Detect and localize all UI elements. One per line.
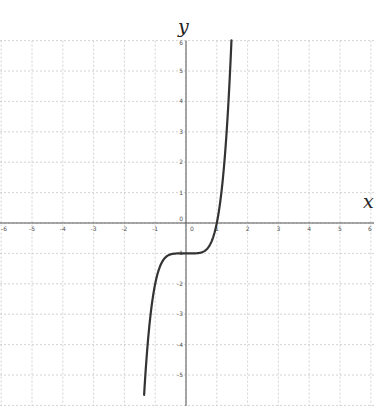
y-tick-label: 2 [179,158,183,165]
y-tick-label: 3 [179,128,183,135]
y-tick-label: -5 [177,371,183,378]
y-tick-label: 1 [179,189,183,196]
x-tick-label: 3 [276,225,280,232]
x-tick-label: -2 [121,225,127,232]
x-tick-label: 5 [338,225,342,232]
tick-labels: -6-5-4-3-2-10123456-5-4-3-2-10123456 [1,39,372,378]
x-tick-label: 2 [246,225,250,232]
x-tick-label: 4 [307,225,311,232]
x-tick-label: -3 [91,225,97,232]
x-tick-label: 0 [190,225,194,232]
y-axis-label: y [177,15,189,37]
y-tick-label: 4 [179,97,183,104]
x-tick-label: 6 [368,225,372,232]
function-plot: -6-5-4-3-2-10123456-5-4-3-2-10123456 x y [0,0,374,411]
axes [0,41,374,406]
y-tick-label: -4 [177,341,183,348]
y-tick-label: -3 [177,310,183,317]
x-tick-label: -1 [152,225,158,232]
y-tick-label: 0 [179,215,183,222]
y-tick-label: -2 [177,280,183,287]
x-tick-label: -6 [1,225,7,232]
x-tick-label: -5 [29,225,35,232]
y-tick-label: 5 [179,67,183,74]
x-tick-label: -4 [60,225,66,232]
x-axis-label: x [363,190,374,212]
y-tick-label: 6 [179,39,183,46]
function-curve [144,40,231,394]
